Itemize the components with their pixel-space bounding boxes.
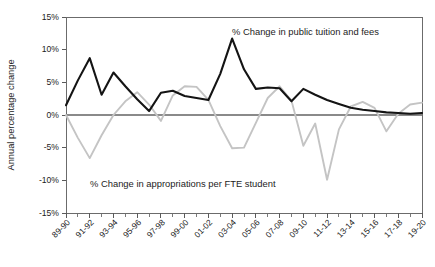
chart-container: 15%10%5%0%-5%-10%-15% 89-9091-9293-9495-…	[0, 0, 435, 267]
y-tick-label: -5%	[44, 142, 60, 152]
y-tick-label: 5%	[47, 77, 60, 87]
annual-percentage-change-line-chart: 15%10%5%0%-5%-10%-15% 89-9091-9293-9495-…	[0, 0, 435, 267]
y-tick-label: 10%	[42, 44, 60, 54]
y-tick-label: 0%	[47, 110, 60, 120]
y-tick-label: -15%	[39, 208, 59, 218]
y-tick-label: -10%	[39, 175, 59, 185]
y-axis-title: Annual percentage change	[6, 59, 16, 170]
annotation-tuition-label: % Change in public tuition and fees	[232, 26, 379, 37]
annotation-appropriations-label: % Change in appropriations per FTE stude…	[90, 178, 276, 189]
y-tick-label: 15%	[42, 12, 60, 22]
